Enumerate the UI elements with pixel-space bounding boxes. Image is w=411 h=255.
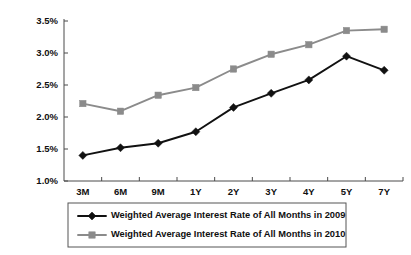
- x-tick-label: 9M: [152, 186, 165, 197]
- x-axis: 3M6M9M1Y2Y3Y4Y5Y7Y: [64, 177, 403, 197]
- x-tick-label: 7Y: [378, 186, 390, 197]
- data-point-2009: [154, 139, 162, 147]
- series-layer: [79, 26, 388, 159]
- x-tick-label: 1Y: [190, 186, 202, 197]
- x-tick-label: 2Y: [228, 186, 240, 197]
- data-point-2010: [268, 51, 274, 57]
- data-point-2010: [80, 100, 86, 106]
- data-point-2009: [79, 151, 87, 159]
- x-tick-label: 3Y: [265, 186, 277, 197]
- y-tick-label: 1.0%: [36, 175, 58, 186]
- y-tick-label: 3.0%: [36, 47, 58, 58]
- y-tick-label: 2.0%: [36, 111, 58, 122]
- legend-swatch-marker: [89, 232, 95, 238]
- x-tick-label: 6M: [114, 186, 127, 197]
- chart-legend: Weighted Average Interest Rate of All Mo…: [68, 203, 346, 247]
- x-tick-label: 3M: [76, 186, 89, 197]
- y-tick-label: 2.5%: [36, 79, 58, 90]
- data-point-2010: [343, 27, 349, 33]
- data-point-2010: [230, 66, 236, 72]
- data-point-2009: [267, 89, 275, 97]
- y-tick-label: 1.5%: [36, 143, 58, 154]
- data-point-2010: [155, 92, 161, 98]
- data-point-2010: [193, 84, 199, 90]
- x-tick-label: 4Y: [303, 186, 315, 197]
- interest-rate-line-chart: 3.5%3.0%2.5%2.0%1.5%1.0% 3M6M9M1Y2Y3Y4Y5…: [0, 0, 411, 255]
- data-point-2010: [306, 41, 312, 47]
- data-point-2010: [381, 26, 387, 32]
- data-point-2009: [380, 66, 388, 74]
- data-point-2010: [117, 108, 123, 114]
- legend-item-label: Weighted Average Interest Rate of All Mo…: [111, 229, 345, 239]
- y-tick-label: 3.5%: [36, 15, 58, 26]
- x-tick-label: 5Y: [341, 186, 353, 197]
- legend-item-label: Weighted Average Interest Rate of All Mo…: [111, 210, 345, 220]
- chart-canvas: 3.5%3.0%2.5%2.0%1.5%1.0% 3M6M9M1Y2Y3Y4Y5…: [0, 0, 411, 255]
- y-axis: 3.5%3.0%2.5%2.0%1.5%1.0%: [36, 15, 68, 186]
- data-point-2009: [117, 144, 125, 152]
